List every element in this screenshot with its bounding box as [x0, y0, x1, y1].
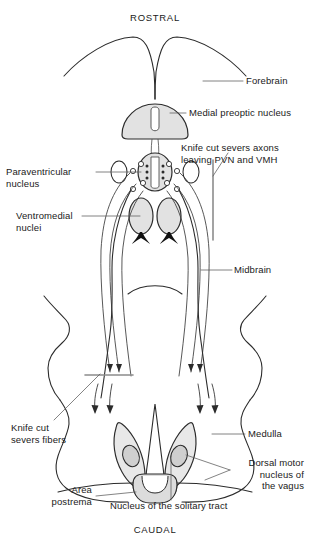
label-paraventricular-nucleus: Paraventricular nucleus — [6, 166, 94, 189]
area-postrema-shape — [133, 474, 177, 503]
orientation-label-caudal: CAUDAL — [105, 524, 205, 535]
label-midbrain: Midbrain — [234, 264, 271, 276]
tract-arrowheads-upper — [107, 364, 203, 372]
orientation-label-rostral: ROSTRAL — [105, 12, 205, 23]
descending-fiber-tracts — [101, 173, 209, 376]
label-medial-preoptic-nucleus: Medial preoptic nucleus — [189, 107, 291, 119]
forebrain-outline — [64, 37, 246, 99]
leader-area-postrema — [96, 492, 136, 496]
label-forebrain: Forebrain — [246, 75, 288, 87]
label-dorsal-motor-nucleus-vagus: Dorsal motor nucleus of the vagus — [204, 457, 304, 492]
label-knife-cut-fibers: Knife cut severs fibers — [11, 422, 93, 445]
lateral-lobe-outline — [44, 296, 266, 400]
label-area-postrema: Area postrema — [18, 484, 92, 507]
label-nucleus-solitary-tract: Nucleus of the solitary tract — [110, 500, 227, 512]
leader-knife-cut-fibers — [54, 374, 100, 420]
medial-preoptic-nucleus-shape — [122, 104, 188, 139]
label-ventromedial-nuclei: Ventromedial nuclei — [16, 210, 86, 233]
ventromedial-nuclei-shape — [129, 198, 181, 244]
label-medulla: Medulla — [248, 428, 282, 440]
label-knife-cut-axons: Knife cut severs axons leaving PVN and V… — [181, 142, 279, 165]
anatomical-diagram-figure: ROSTRAL Forebrain Medial preoptic nucleu… — [0, 0, 310, 546]
